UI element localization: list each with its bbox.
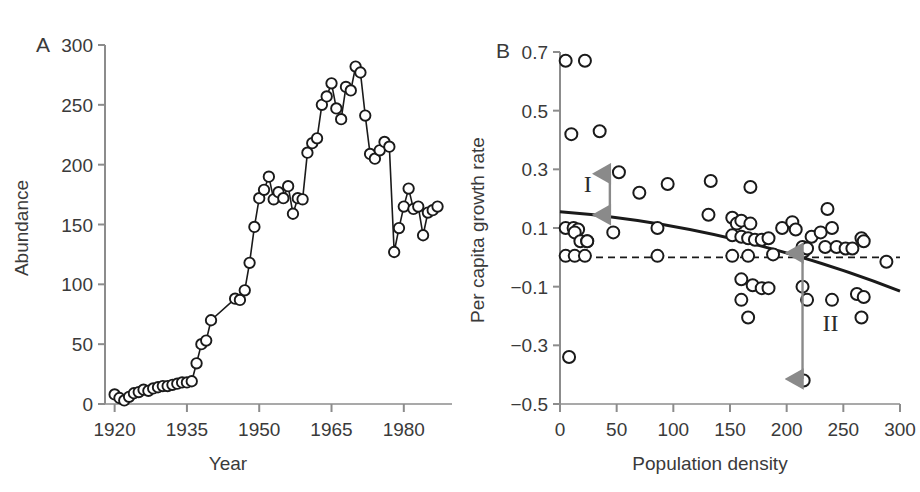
panel-b-data-points — [560, 55, 893, 387]
panel-a-xtick: 1980 — [383, 419, 425, 440]
annotation-label-i: I — [584, 171, 592, 197]
panel-b-xtick: 0 — [555, 419, 566, 440]
data-point — [826, 222, 838, 234]
data-point — [735, 273, 747, 285]
panel-b-ytick: −0.3 — [510, 335, 548, 356]
data-point — [846, 243, 858, 255]
data-point — [336, 114, 346, 124]
panel-a-ytick: 100 — [61, 274, 93, 295]
data-point — [346, 85, 356, 95]
data-point — [187, 376, 197, 386]
panel-b-ytick: 0.5 — [522, 101, 548, 122]
panel-a-ytick: 250 — [61, 95, 93, 116]
data-point — [815, 226, 827, 238]
data-point — [326, 78, 336, 88]
data-point — [264, 171, 274, 181]
panel-b-xtick: 250 — [827, 419, 859, 440]
panel-b-ytick: 0.3 — [522, 159, 548, 180]
panel-b-ytick: −0.5 — [510, 394, 548, 415]
data-point — [560, 55, 572, 67]
data-point — [331, 103, 341, 113]
panel-b-xtick: 300 — [884, 419, 916, 440]
data-point — [790, 223, 802, 235]
data-point — [384, 142, 394, 152]
data-point — [763, 282, 775, 294]
panel-a-ytick: 300 — [61, 35, 93, 56]
data-point — [355, 67, 365, 77]
annotation-label-ii: II — [823, 310, 839, 336]
data-point — [201, 335, 211, 345]
data-point — [297, 194, 307, 204]
panel-a-ytick: 50 — [72, 334, 93, 355]
data-point — [702, 209, 714, 221]
data-point — [413, 201, 423, 211]
panel-b-annotations: III — [584, 171, 839, 379]
data-point — [819, 241, 831, 253]
panel-a-letter: A — [36, 33, 50, 56]
data-point — [651, 250, 663, 262]
panel-b-ylabel: Per capita growth rate — [467, 137, 488, 323]
data-point — [607, 226, 619, 238]
panel-b-xtick: 100 — [657, 419, 689, 440]
panel-a-xlabel: Year — [209, 453, 248, 474]
data-point — [801, 243, 813, 255]
data-point — [579, 250, 591, 262]
panel-b-ytick: −0.1 — [510, 277, 548, 298]
data-point — [821, 203, 833, 215]
figure-container: 05010015020025030019201935195019651980 A… — [0, 0, 920, 492]
data-point — [858, 235, 870, 247]
data-point — [360, 110, 370, 120]
panel-a-svg: 05010015020025030019201935195019651980 A… — [0, 0, 460, 492]
panel-b-xtick: 150 — [714, 419, 746, 440]
data-point — [855, 311, 867, 323]
data-point — [880, 256, 892, 268]
data-point — [321, 91, 331, 101]
data-point — [735, 294, 747, 306]
data-point — [613, 166, 625, 178]
panel-b-letter: B — [496, 39, 510, 62]
data-point — [288, 209, 298, 219]
data-point — [763, 232, 775, 244]
data-point — [633, 187, 645, 199]
panel-a-xtick: 1950 — [238, 419, 280, 440]
data-point — [283, 181, 293, 191]
panel-b-xlabel: Population density — [632, 453, 788, 474]
panel-b: 0.70.50.30.1−0.1−0.3−0.50501001502002503… — [460, 0, 920, 492]
data-point — [259, 185, 269, 195]
panel-a: 05010015020025030019201935195019651980 A… — [0, 0, 460, 492]
panel-a-xtick: 1920 — [93, 419, 135, 440]
data-point — [651, 222, 663, 234]
data-point — [594, 125, 606, 137]
panel-a-ytick: 0 — [82, 394, 93, 415]
panel-b-xtick: 200 — [771, 419, 803, 440]
data-point — [249, 222, 259, 232]
data-point — [705, 175, 717, 187]
panel-a-ytick: 200 — [61, 155, 93, 176]
data-point — [432, 201, 442, 211]
data-point — [742, 250, 754, 262]
data-point — [662, 178, 674, 190]
panel-a-tick-labels: 05010015020025030019201935195019651980 — [61, 35, 425, 440]
data-point — [244, 258, 254, 268]
data-point — [767, 248, 779, 260]
data-point — [726, 250, 738, 262]
data-point — [858, 291, 870, 303]
panel-a-xtick: 1935 — [166, 419, 208, 440]
data-point — [418, 230, 428, 240]
panel-b-ytick: 0.7 — [522, 42, 548, 63]
data-point — [278, 193, 288, 203]
data-point — [744, 218, 756, 230]
panel-b-svg: 0.70.50.30.1−0.1−0.3−0.50501001502002503… — [460, 0, 920, 492]
panel-a-ylabel: Abundance — [11, 180, 32, 276]
panel-a-ytick: 150 — [61, 215, 93, 236]
data-point — [742, 311, 754, 323]
data-point — [403, 183, 413, 193]
panel-b-ytick: 0.1 — [522, 218, 548, 239]
data-point — [744, 181, 756, 193]
panel-b-xtick: 50 — [606, 419, 627, 440]
panel-a-data-series — [109, 61, 442, 405]
data-point — [389, 247, 399, 257]
data-point — [579, 55, 591, 67]
data-point — [826, 294, 838, 306]
data-point — [563, 351, 575, 363]
